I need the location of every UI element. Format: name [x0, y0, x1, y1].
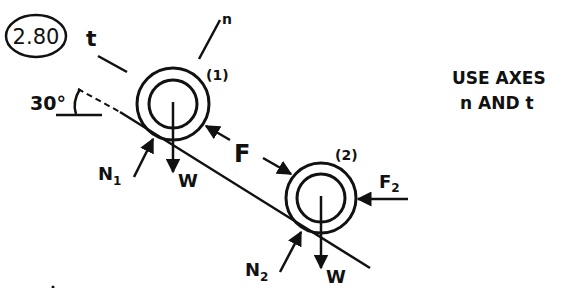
incline-angle-marker: 30°: [30, 89, 102, 115]
contact-force-arrow-2: [263, 158, 291, 174]
incline-angle-label: 30°: [30, 92, 66, 114]
contact-force-arrow-1: [206, 126, 230, 140]
t-axis: t: [86, 26, 127, 72]
cylinder-2: (2) W N2 F2: [245, 147, 408, 287]
cylinder-2-id-label: (2): [335, 147, 358, 163]
n-axis: n: [199, 11, 232, 59]
cylinder-1-id-label: (1): [206, 67, 229, 83]
instruction-line-1: USE AXES: [452, 68, 546, 88]
free-body-diagram: 2.80 t n 30° (1) W N1 F: [0, 0, 587, 288]
instruction-line-2: n AND t: [460, 93, 534, 113]
n-axis-label: n: [222, 11, 232, 27]
normal-force-arrow-1: [134, 139, 153, 177]
instruction-note: USE AXES n AND t: [452, 68, 546, 113]
problem-number-label: 2.80: [6, 15, 66, 57]
weight-label-2: W: [326, 266, 346, 287]
contact-force-label: F: [234, 140, 250, 168]
weight-label-1: W: [178, 170, 198, 191]
incline-surface: [78, 89, 370, 268]
horizontal-force-label: F2: [379, 171, 400, 195]
normal-force-label-2: N2: [245, 259, 268, 284]
contact-force: F: [206, 126, 291, 174]
t-axis-label: t: [86, 26, 97, 51]
problem-number-text: 2.80: [13, 25, 60, 49]
normal-force-label-1: N1: [98, 163, 121, 188]
normal-force-arrow-2: [280, 232, 301, 272]
